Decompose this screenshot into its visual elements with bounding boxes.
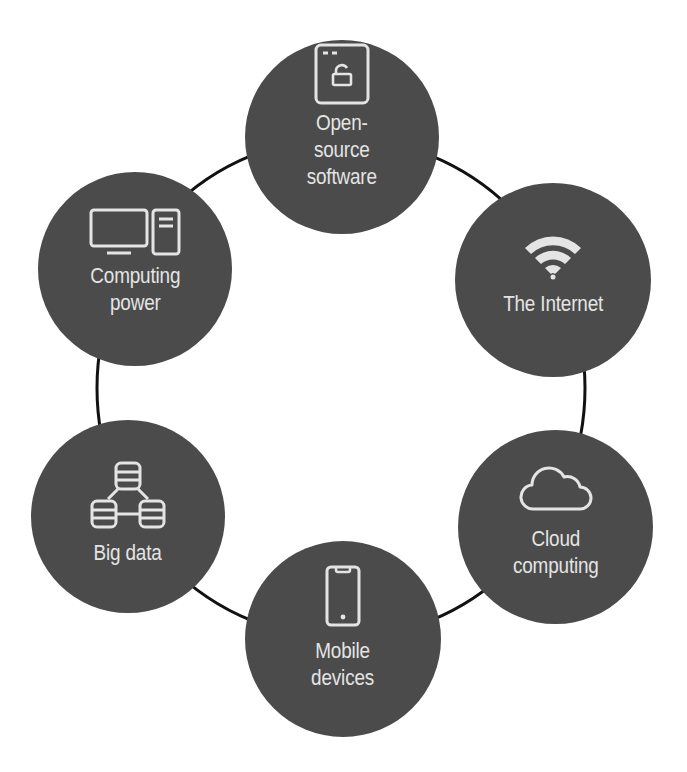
node-label: Cloud computing	[513, 525, 599, 579]
browser-unlock-icon	[314, 43, 370, 105]
node-label: Computing power	[90, 262, 180, 316]
node-the-internet: The Internet	[455, 183, 651, 377]
node-open-source-software: Open- source software	[245, 40, 439, 234]
node-label: Big data	[94, 539, 162, 566]
wifi-icon	[521, 230, 585, 280]
node-computing-power: Computing power	[38, 172, 232, 366]
smartphone-icon	[325, 565, 361, 627]
node-label: The Internet	[503, 290, 603, 317]
node-label: Mobile devices	[312, 637, 375, 691]
database-network-icon	[88, 461, 168, 531]
node-cloud-computing: Cloud computing	[458, 430, 653, 624]
desktop-computer-icon	[89, 208, 181, 256]
node-mobile-devices: Mobile devices	[245, 541, 441, 737]
node-label: Open- source software	[307, 109, 377, 190]
cloud-icon	[518, 463, 594, 513]
node-big-data: Big data	[31, 420, 225, 613]
